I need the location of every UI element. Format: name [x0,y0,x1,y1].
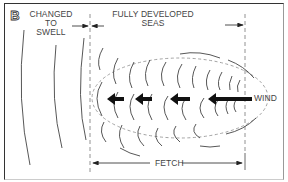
arrow-left-icon [107,93,124,105]
label-line: CHANGED TO [26,10,76,28]
label-line: SEAS [98,19,208,28]
changed-to-swell-label: CHANGED TO SWELL [26,10,76,37]
arrow-left-icon [135,93,152,105]
panel-letter: B [8,9,22,23]
swell-wave-lines [21,30,86,165]
wave-direction-arrows [107,93,252,105]
label-line: SWELL [26,28,76,37]
wind-label: WIND [254,94,277,103]
fetch-label: FETCH [155,159,184,168]
arrow-left-icon [170,93,190,105]
fully-developed-seas-label: FULLY DEVELOPED SEAS [98,10,208,28]
